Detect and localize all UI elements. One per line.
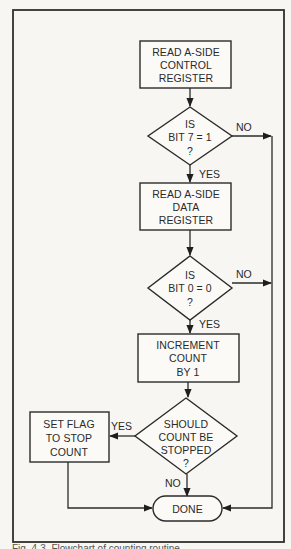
- node-read-control-register: READ A-SIDE CONTROL REGISTER: [140, 41, 231, 88]
- node-text-line: ?: [187, 145, 193, 157]
- node-done: DONE: [153, 496, 222, 521]
- edge-arrow: [68, 462, 152, 508]
- node-text-line: REGISTER: [159, 72, 214, 84]
- node-text-line: BIT 0 = 0: [168, 282, 212, 294]
- edge-label-yes: YES: [199, 168, 220, 180]
- node-increment-count: INCREMENT COUNT BY 1: [138, 334, 239, 382]
- node-text-line: IS: [185, 269, 195, 281]
- node-text-line: SHOULD: [164, 418, 209, 430]
- node-text-line: COUNT: [50, 446, 88, 458]
- node-text-line: STOPPED: [161, 444, 212, 456]
- node-text-line: READ A-SIDE: [152, 188, 220, 200]
- node-text-line: COUNT BE: [159, 431, 214, 443]
- node-text-line: INCREMENT: [156, 339, 220, 351]
- node-text-line: READ A-SIDE: [152, 46, 220, 58]
- node-check-bit7: IS BIT 7 = 1 ?: [148, 107, 232, 165]
- edge-label-yes: YES: [111, 420, 132, 432]
- node-check-bit0: IS BIT 0 = 0 ?: [148, 256, 232, 320]
- node-text-line: TO STOP: [46, 432, 92, 444]
- flowchart-diagram: READ A-SIDE CONTROL REGISTER IS BIT 7 = …: [0, 0, 291, 549]
- node-text-line: COUNT: [169, 352, 207, 364]
- edge-label-no: NO: [236, 268, 252, 280]
- edge-label-no: NO: [236, 121, 252, 133]
- node-text-line: CONTROL: [160, 59, 212, 71]
- node-text-line: DATA: [173, 201, 200, 213]
- node-text-line: REGISTER: [159, 214, 214, 226]
- edge-label-yes: YES: [199, 318, 220, 330]
- node-text-line: BY 1: [177, 366, 200, 378]
- node-set-flag: SET FLAG TO STOP COUNT: [30, 412, 109, 462]
- node-text-line: ?: [183, 457, 189, 469]
- node-text-line: SET FLAG: [43, 418, 94, 430]
- node-text-line: DONE: [172, 503, 203, 515]
- figure-caption: Fig. 4-3. Flowchart of counting routine: [12, 543, 180, 549]
- node-read-data-register: READ A-SIDE DATA REGISTER: [140, 183, 231, 230]
- edge-label-no: NO: [165, 477, 181, 489]
- node-should-count-stop: SHOULD COUNT BE STOPPED ?: [135, 398, 237, 474]
- node-text-line: BIT 7 = 1: [168, 131, 212, 143]
- node-text-line: ?: [187, 296, 193, 308]
- node-text-line: IS: [185, 118, 195, 130]
